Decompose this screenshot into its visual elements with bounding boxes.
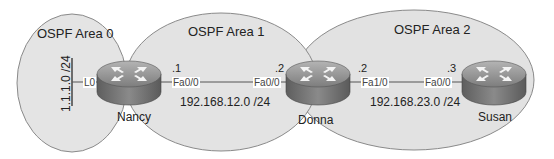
donna-host-id-area1: .2 — [275, 62, 284, 74]
susan-host-id: .3 — [447, 62, 456, 74]
susan-fa00-label: Fa0/0 — [424, 77, 452, 88]
nancy-fa00-label: Fa0/0 — [172, 77, 200, 88]
loopback-network-label: 1.1.1.0 /24 — [59, 55, 73, 112]
loopback-interface-label: L0 — [83, 77, 96, 88]
router-icon[interactable] — [97, 61, 161, 105]
donna-host-id-area2: .2 — [358, 62, 367, 74]
router-icon[interactable] — [462, 61, 526, 105]
router-name-susan: Susan — [478, 110, 512, 124]
subnet-23-label: 192.168.23.0 /24 — [370, 95, 460, 109]
router-name-nancy: Nancy — [117, 110, 151, 124]
router-name-donna: Donna — [298, 113, 333, 127]
nancy-host-id: .1 — [172, 62, 181, 74]
ospf-topology-diagram: OSPF Area 0 OSPF Area 1 OSPF Area 2 1.1.… — [0, 0, 554, 159]
donna-fa10-label: Fa1/0 — [361, 77, 389, 88]
subnet-12-label: 192.168.12.0 /24 — [180, 95, 270, 109]
area0-label: OSPF Area 0 — [37, 26, 114, 41]
router-icon[interactable] — [286, 61, 350, 105]
donna-fa00-label: Fa0/0 — [253, 77, 281, 88]
area2-label: OSPF Area 2 — [394, 22, 471, 37]
area1-label: OSPF Area 1 — [188, 24, 265, 39]
